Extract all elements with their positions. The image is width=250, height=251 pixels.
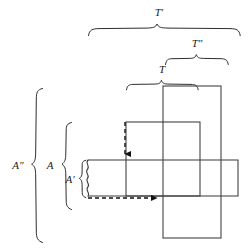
figure-container: T′ T″ T A″ A <box>0 0 250 251</box>
a-brace-path <box>62 123 72 210</box>
t-double-prime-brace-path <box>166 55 229 65</box>
t-double-prime-brace: T″ <box>166 37 229 65</box>
left-braces-group: A″ A A′ <box>11 89 85 243</box>
a-prime-brace: A′ <box>64 160 85 197</box>
a-double-prime-brace: A″ <box>11 89 42 243</box>
a-double-prime-label: A″ <box>11 159 24 171</box>
t-prime-brace-path <box>89 24 241 36</box>
a-prime-brace-path <box>79 160 86 197</box>
t-label: T <box>159 63 166 75</box>
t-double-prime-label: T″ <box>192 37 203 49</box>
t-prime-brace: T′ <box>89 6 241 36</box>
a-label: A <box>46 159 54 171</box>
a-double-prime-brace-path <box>32 89 43 243</box>
a-prime-label: A′ <box>64 173 75 185</box>
tall-vertical-rectangle <box>163 86 221 238</box>
rectangles-group <box>86 86 238 238</box>
a-brace: A <box>46 123 72 210</box>
wavy-break-edge-icon <box>86 160 88 196</box>
t-prime-label: T′ <box>155 6 164 18</box>
wide-horizontal-rectangle <box>86 160 238 196</box>
t-brace-path <box>127 80 199 90</box>
diagram-canvas: T′ T″ T A″ A <box>0 0 250 251</box>
top-braces-group: T′ T″ T <box>89 6 241 90</box>
